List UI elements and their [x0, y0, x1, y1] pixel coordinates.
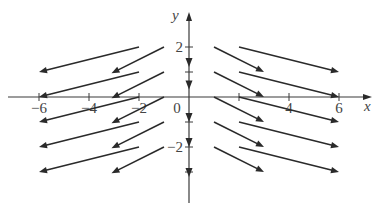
down-arrowhead-icon	[186, 58, 193, 67]
direction-field-plot: −6−4−2046−22 x y	[0, 0, 377, 213]
arrowhead-icon	[330, 67, 339, 73]
arrowhead-icon	[255, 166, 264, 172]
down-arrowhead-icon	[186, 113, 193, 122]
x-axis-label: x	[363, 98, 371, 114]
arrowhead-icon	[330, 167, 339, 173]
arrowhead-icon	[255, 116, 264, 122]
x-tick-label: −6	[31, 100, 47, 116]
arrowhead-icon	[255, 141, 264, 147]
arrowhead-icon	[112, 67, 121, 73]
arrowhead-icon	[39, 67, 48, 73]
down-arrowhead-icon	[186, 81, 193, 90]
arrowhead-icon	[39, 167, 48, 173]
y-axis-arrow-icon	[186, 12, 192, 21]
x-tick-label: 6	[335, 100, 343, 116]
arrowhead-icon	[330, 117, 339, 123]
arrowhead-icon	[112, 117, 121, 123]
y-axis-label: y	[170, 7, 179, 23]
y-tick-label: −2	[167, 139, 183, 155]
arrowhead-icon	[255, 66, 264, 72]
x-tick-label: −2	[131, 100, 147, 116]
x-tick-label: 0	[173, 100, 181, 116]
arrowhead-icon	[39, 142, 48, 148]
arrowhead-icon	[330, 142, 339, 148]
arrowhead-icon	[112, 142, 121, 148]
arrowhead-icon	[112, 167, 121, 173]
down-arrowhead-icon	[186, 138, 193, 147]
arrowhead-icon	[112, 92, 121, 98]
y-tick-label: 2	[176, 39, 184, 55]
x-tick-label: 4	[285, 100, 293, 116]
arrowhead-icon	[39, 117, 48, 123]
arrowhead-icon	[255, 91, 264, 97]
